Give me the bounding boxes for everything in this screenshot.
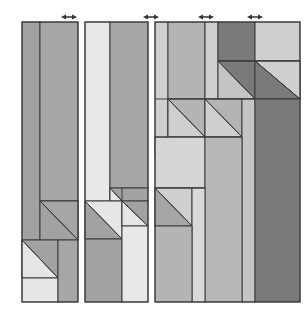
p3-light-block [155,137,205,188]
p3-dark-strip [255,99,300,302]
p1-right-strip [40,22,78,201]
p1-left-strip [22,22,40,240]
p1-bottom-light [22,278,58,302]
quilt-diagram [0,0,307,322]
p3-col-c [205,22,218,99]
p3-ll-bottom [155,226,192,302]
panel-1 [22,22,78,302]
panel-3 [155,22,300,302]
p3-row3-c [242,99,255,302]
double-arrow-icon [198,15,214,20]
seam-arrows [61,15,263,20]
p3-ll-strip [192,188,205,302]
p3-col-b [168,22,205,99]
p1-right-low [58,240,78,302]
p2-bottom-light [122,226,148,302]
p2-gray-strip [110,22,148,188]
p2-bottom-gray [85,239,122,302]
double-arrow-icon [247,15,263,20]
p3-mid-block [205,137,242,302]
p2-light-strip [85,22,110,201]
double-arrow-icon [143,15,159,20]
p3-col-e [255,22,300,61]
panel-2 [85,22,148,302]
p3-col-d-dark [218,22,255,61]
double-arrow-icon [61,15,77,20]
